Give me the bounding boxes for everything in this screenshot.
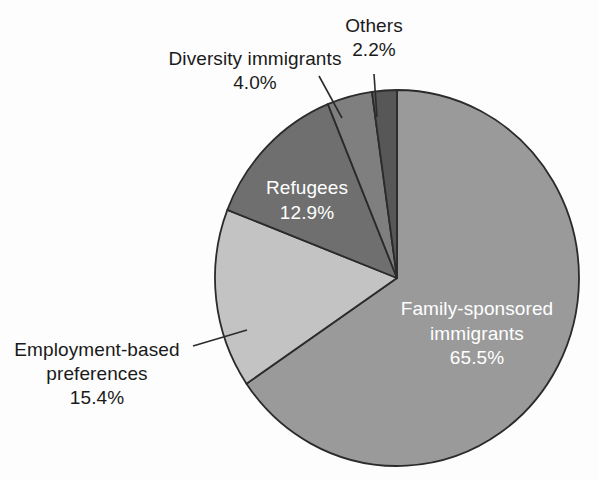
pie-slices: [215, 90, 579, 466]
pie-label-refugees-name: Refugees: [247, 176, 367, 201]
pie-label-family-name-line2: immigrants: [382, 322, 572, 347]
pie-label-refugees-value: 12.9%: [247, 201, 367, 226]
pie-label-employment-name-line1: Employment-based: [2, 338, 192, 362]
pie-label-diversity-name: Diversity immigrants: [135, 47, 375, 71]
pie-label-family-name-line1: Family-sponsored: [382, 297, 572, 322]
pie-label-employment-value: 15.4%: [2, 386, 192, 410]
pie-label-refugees: Refugees 12.9%: [247, 176, 367, 225]
pie-label-others-name: Others: [319, 14, 429, 38]
pie-label-employment-name-line2: preferences: [2, 362, 192, 386]
pie-label-employment-based-preferences: Employment-based preferences 15.4%: [2, 338, 192, 409]
pie-label-diversity-immigrants: Diversity immigrants 4.0%: [135, 47, 375, 95]
pie-chart-figure: Others 2.2% Diversity immigrants 4.0% Re…: [0, 0, 598, 480]
pie-label-family-sponsored-immigrants: Family-sponsored immigrants 65.5%: [382, 297, 572, 371]
pie-label-family-value: 65.5%: [382, 346, 572, 371]
pie-label-diversity-value: 4.0%: [135, 71, 375, 95]
